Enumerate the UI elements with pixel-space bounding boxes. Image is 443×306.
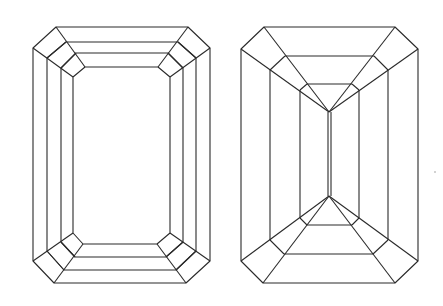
- crown-ring-3: [61, 53, 183, 257]
- speck: [434, 171, 436, 173]
- pavilion-outer-outline: [241, 27, 418, 283]
- gem-diagrams: [0, 0, 443, 306]
- pavilion-view-diagram: [241, 27, 418, 283]
- crown-view-diagram: [33, 27, 210, 283]
- crown-table: [73, 67, 170, 244]
- figure-canvas: [0, 0, 443, 306]
